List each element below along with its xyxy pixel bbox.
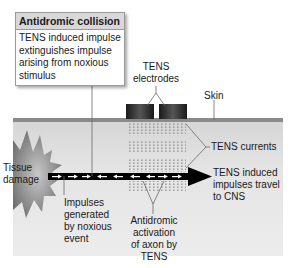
antidromic-collision-callout: Antidromic collision TENS induced impuls… [15,12,125,86]
label-line: damage [3,174,39,186]
label-line: generated [64,209,112,221]
antidromic-activation-label: Antidromic activation of axon by TENS [123,215,185,263]
label-line: of axon by [123,239,185,251]
tens-impulses-label: TENS induced impulses travel to CNS [213,167,280,203]
callout-line: arising from noxious [19,57,121,70]
callout-line: TENS induced impulse [19,32,121,45]
noxious-impulses-label: Impulses generated by noxious event [64,197,112,245]
label-line: Antidromic [123,215,185,227]
label-line: Impulses [64,197,112,209]
label-line: impulses travel [213,179,280,191]
electrode-right [159,104,187,119]
callout-line: extinguishes impulse [19,45,121,58]
label-line: activation [123,227,185,239]
skin-label: Skin [204,90,223,102]
callout-line: stimulus [19,70,121,83]
tissue-damage-label: Tissue damage [3,162,39,186]
label-line: to CNS [213,191,280,203]
callout-body: TENS induced impulse extinguishes impuls… [16,30,124,84]
label-line: TENS [128,61,184,73]
label-line: event [64,233,112,245]
tens-currents-dots [128,123,186,191]
label-line: TENS induced [213,167,280,179]
electrode-left [126,104,154,119]
label-line: TENS [123,251,185,263]
electrodes-label: TENS electrodes [128,61,184,85]
tens-currents-label: TENS currents [211,141,277,153]
label-line: Tissue [3,162,39,174]
callout-title: Antidromic collision [16,13,124,30]
label-line: electrodes [128,73,184,85]
label-line: by noxious [64,221,112,233]
